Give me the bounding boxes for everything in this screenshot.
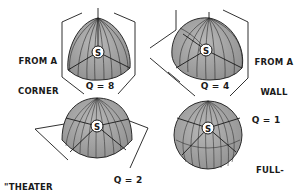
source-label: S <box>95 48 101 58</box>
wall-label-line2: WALL <box>252 87 296 97</box>
q-label-floor: Q = 2 <box>110 175 146 185</box>
full-sphere-shape <box>174 101 242 169</box>
free-label-line1: FULL- <box>240 165 300 175</box>
source-label: S <box>94 122 100 132</box>
source-marker-floor: S <box>91 120 103 132</box>
panel-free-field: S <box>174 101 242 169</box>
corner-label: FROM A CORNER <box>18 36 58 116</box>
source-marker-corner: S <box>92 46 104 58</box>
corner-label-line1: FROM A <box>18 56 58 66</box>
corner-label-line2: CORNER <box>18 86 58 96</box>
source-marker-wall: S <box>200 44 212 56</box>
source-marker-free: S <box>202 122 214 134</box>
source-label: S <box>205 124 211 134</box>
directivity-diagram: S <box>0 0 300 191</box>
wall-label: FROM A WALL <box>252 37 296 117</box>
source-label: S <box>203 46 209 56</box>
q-label-corner: Q = 8 <box>80 81 120 91</box>
wall-label-line1: FROM A <box>252 57 296 67</box>
floor-label-line1: "THEATER <box>4 182 84 191</box>
floor-label: "THEATER IN THE ROUND" <box>4 162 84 191</box>
free-field-label: FULL- SPHERE DIRECTIVITY <box>240 145 300 191</box>
q-label-free: Q = 1 <box>248 115 284 125</box>
q-label-wall: Q = 4 <box>195 81 235 91</box>
